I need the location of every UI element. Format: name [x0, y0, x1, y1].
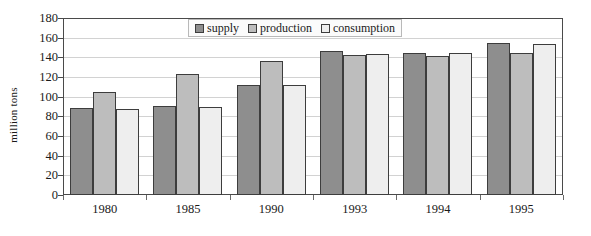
y-tick-label: 120: [20, 71, 58, 84]
bar-production-1980: [93, 92, 116, 195]
legend-swatch-icon: [195, 24, 204, 33]
legend-swatch-icon: [248, 24, 257, 33]
bar-consumption-1995: [533, 44, 556, 195]
bar-production-1985: [176, 74, 199, 195]
legend-label: production: [260, 22, 312, 34]
x-axis-tick-labels: 198019851990199319941995: [63, 202, 563, 224]
x-tick-mark: [230, 195, 231, 200]
y-tick-mark: [58, 136, 63, 137]
y-tick-mark: [58, 77, 63, 78]
bar-consumption-1985: [199, 107, 222, 196]
y-axis-title: million tons: [8, 60, 19, 170]
legend-item-production: production: [248, 22, 312, 34]
chart-legend: supplyproductionconsumption: [188, 19, 402, 37]
bar-supply-1980: [70, 108, 93, 195]
x-tick-mark: [146, 195, 147, 200]
x-tick-label: 1990: [230, 202, 313, 216]
y-axis-tick-labels: 180160140120100806040200: [20, 11, 58, 201]
y-tick-label: 40: [20, 150, 58, 163]
x-tick-label: 1994: [396, 202, 479, 216]
y-tick-label: 60: [20, 130, 58, 143]
bars-layer: [63, 18, 563, 195]
y-tick-label: 20: [20, 169, 58, 182]
bar-supply-1994: [403, 53, 426, 195]
bar-consumption-1993: [366, 54, 389, 195]
bar-supply-1995: [487, 43, 510, 195]
bar-chart: million tons 180160140120100806040200 19…: [0, 0, 591, 236]
y-tick-label: 180: [20, 12, 58, 25]
legend-label: consumption: [333, 22, 395, 34]
y-tick-mark: [58, 18, 63, 19]
bar-group: [146, 18, 229, 195]
x-tick-label: 1985: [146, 202, 229, 216]
bar-consumption-1980: [116, 109, 139, 195]
bar-production-1990: [260, 61, 283, 195]
y-tick-label: 100: [20, 91, 58, 104]
bar-production-1995: [510, 53, 533, 195]
legend-label: supply: [207, 22, 239, 34]
bar-supply-1985: [153, 106, 176, 195]
bar-consumption-1994: [449, 53, 472, 195]
x-tick-mark: [480, 195, 481, 200]
bar-production-1994: [426, 56, 449, 195]
bar-supply-1993: [320, 51, 343, 195]
bar-consumption-1990: [283, 85, 306, 195]
legend-item-consumption: consumption: [321, 22, 395, 34]
y-tick-mark: [58, 116, 63, 117]
x-tick-mark: [563, 195, 564, 200]
y-tick-label: 80: [20, 110, 58, 123]
x-tick-mark: [63, 195, 64, 200]
y-tick-mark: [58, 175, 63, 176]
y-tick-mark: [58, 57, 63, 58]
x-tick-label: 1993: [313, 202, 396, 216]
y-tick-label: 140: [20, 51, 58, 64]
legend-swatch-icon: [321, 24, 330, 33]
y-tick-label: 0: [20, 189, 58, 202]
y-tick-mark: [58, 156, 63, 157]
bar-group: [480, 18, 563, 195]
x-tick-label: 1980: [63, 202, 146, 216]
bar-group: [396, 18, 479, 195]
bar-production-1993: [343, 55, 366, 195]
bar-supply-1990: [237, 85, 260, 195]
bar-group: [313, 18, 396, 195]
x-tick-mark: [396, 195, 397, 200]
bar-group: [63, 18, 146, 195]
y-tick-label: 160: [20, 32, 58, 45]
bar-group: [230, 18, 313, 195]
x-tick-label: 1995: [480, 202, 563, 216]
x-tick-mark: [313, 195, 314, 200]
legend-item-supply: supply: [195, 22, 239, 34]
y-tick-mark: [58, 38, 63, 39]
y-tick-mark: [58, 97, 63, 98]
